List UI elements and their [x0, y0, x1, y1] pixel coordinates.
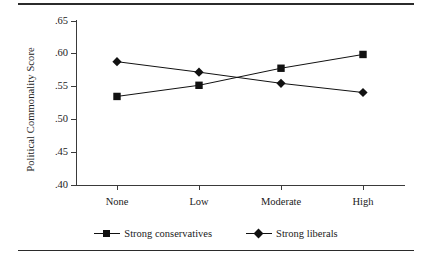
x-tick-mark [363, 185, 364, 190]
y-tick-mark [71, 185, 76, 186]
legend-item-strong-conservatives: Strong conservatives [94, 228, 212, 239]
y-tick-label: .45 [40, 146, 68, 157]
square-marker-icon [359, 51, 366, 58]
x-tick-mark [117, 185, 118, 190]
chart-legend: Strong conservatives Strong liberals [0, 228, 432, 239]
diamond-marker-icon [276, 79, 285, 88]
diamond-marker-icon [112, 57, 121, 66]
legend-item-strong-liberals: Strong liberals [246, 228, 338, 239]
chart-figure: Political Commonality Score .65 .60 .55 … [0, 0, 432, 266]
series-line-1 [117, 62, 363, 93]
bottom-rule [18, 250, 414, 251]
square-marker-icon [277, 65, 284, 72]
square-marker-icon [94, 229, 120, 239]
series-plot-layer [0, 0, 432, 266]
square-marker-icon [113, 93, 120, 100]
y-tick-mark [71, 86, 76, 87]
x-tick-label: Moderate [261, 196, 301, 207]
diamond-marker-icon [358, 88, 367, 97]
diamond-marker-icon [246, 229, 272, 239]
y-tick-mark [71, 53, 76, 54]
y-tick-label: .55 [40, 80, 68, 91]
diamond-marker-icon [194, 68, 203, 77]
legend-label: Strong liberals [276, 228, 338, 239]
y-tick-label: .50 [40, 113, 68, 124]
legend-label: Strong conservatives [124, 228, 212, 239]
x-tick-mark [199, 185, 200, 190]
x-tick-mark [281, 185, 282, 190]
x-tick-label: Low [189, 196, 208, 207]
y-tick-mark [71, 152, 76, 153]
y-tick-label: .65 [40, 15, 68, 26]
x-tick-label: High [353, 196, 374, 207]
y-tick-label: .40 [40, 179, 68, 190]
x-axis-line [76, 185, 405, 186]
y-axis-title: Political Commonality Score [25, 20, 36, 200]
y-tick-label: .60 [40, 47, 68, 58]
y-axis-line [76, 20, 77, 186]
y-tick-mark [71, 21, 76, 22]
top-rule [18, 3, 414, 5]
square-marker-icon [195, 82, 202, 89]
x-tick-label: None [106, 196, 129, 207]
y-tick-mark [71, 119, 76, 120]
series-line-0 [117, 54, 363, 96]
